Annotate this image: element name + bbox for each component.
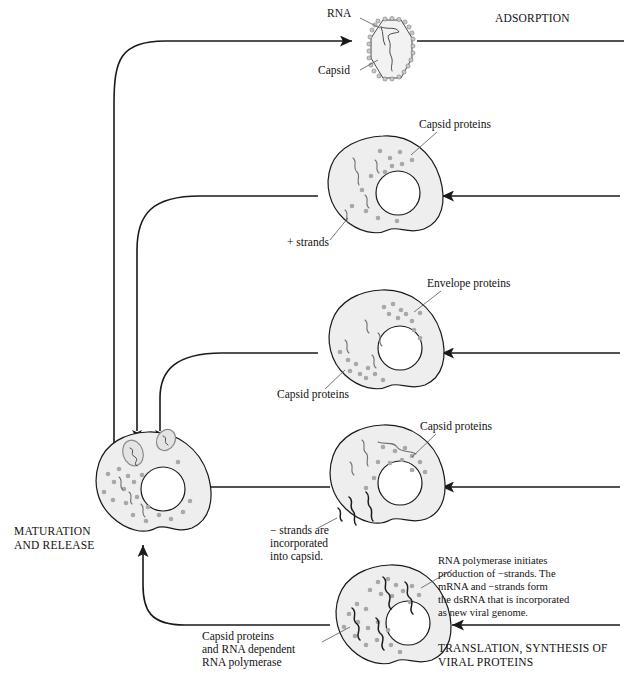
leader-capsid-proteins-2 [325, 370, 345, 389]
label-maturation-block: MATURATION AND RELEASE [14, 525, 94, 551]
label-plus-strands: + strands [287, 236, 329, 248]
label-polymerase-line2: and RNA dependent [202, 643, 296, 656]
label-rna-polymerase-block: Capsid proteins and RNA dependent RNA po… [202, 630, 296, 669]
note-line-3: mRNA and −strands form [438, 581, 549, 592]
label-polymerase-line1: Capsid proteins [202, 630, 274, 643]
label-minus-strands-block: − strands are incorporated into capsid. [270, 524, 329, 563]
label-translation-line2: VIRAL PROTEINS [438, 656, 533, 668]
leader-plus-strands [330, 218, 348, 240]
label-minus-strands-line3: into capsid. [270, 550, 323, 563]
label-capsid-proteins-1: Capsid proteins [419, 118, 491, 131]
flow-curve-adsorption-to-maturation [114, 41, 165, 443]
label-adsorption: ADSORPTION [495, 12, 570, 24]
label-maturation-line2: AND RELEASE [14, 539, 94, 551]
label-minus-strands-line2: incorporated [270, 537, 328, 550]
note-rna-polymerase: RNA polymerase initiates production of −… [438, 555, 570, 618]
nucleus-cell-maturation [141, 467, 185, 511]
nucleus-cell-envelope [378, 326, 422, 370]
cell-envelope-proteins [329, 290, 444, 389]
label-minus-strands-line1: − strands are [270, 524, 329, 536]
note-line-2: production of −strands. The [438, 568, 556, 579]
label-capsid: Capsid [318, 64, 350, 77]
nucleus-cell-minus-strands [378, 461, 422, 505]
label-translation-line1: TRANSLATION, SYNTHESIS OF [438, 642, 608, 655]
label-rna: RNA [327, 7, 352, 19]
label-maturation-line1: MATURATION [14, 525, 91, 537]
note-line-5: as new viral genome. [438, 607, 528, 618]
note-line-1: RNA polymerase initiates [438, 555, 547, 566]
cell-minus-strands [330, 425, 445, 525]
cell-translation [336, 565, 451, 664]
cell-plus-strands [328, 136, 443, 233]
label-capsid-proteins-3: Capsid proteins [420, 420, 492, 433]
nucleus-cell-plus-strands [376, 171, 420, 215]
note-line-4: the dsRNA that is incorporated [438, 594, 570, 605]
label-polymerase-line3: RNA polymerase [202, 656, 282, 669]
viral-replication-diagram: RNA Capsid ADSORPTION C [0, 0, 637, 683]
virus-capsid-particle [367, 16, 415, 81]
nucleus-cell-translation [386, 601, 430, 645]
label-translation-block: TRANSLATION, SYNTHESIS OF VIRAL PROTEINS [438, 642, 608, 668]
label-envelope-proteins: Envelope proteins [427, 277, 511, 290]
label-capsid-proteins-2: Capsid proteins [277, 388, 349, 401]
